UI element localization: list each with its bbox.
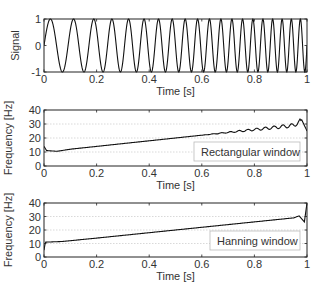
- x-tick-label: 0: [41, 73, 47, 85]
- x-tick-label: 0.6: [194, 258, 209, 270]
- y-axis-label: Signal: [9, 30, 21, 61]
- y-tick-label: 20: [29, 132, 41, 144]
- x-axis-label: Time [s]: [156, 85, 195, 97]
- x-tick-label: 1: [304, 167, 310, 179]
- y-tick-label: 0: [35, 40, 41, 52]
- x-tick-label: 0.8: [247, 258, 262, 270]
- y-tick-label: 1: [35, 13, 41, 25]
- x-tick-label: 0.6: [194, 73, 209, 85]
- x-tick-label: 0.8: [247, 73, 262, 85]
- x-tick-label: 0.6: [194, 167, 209, 179]
- hanning-window-plot: 00.20.40.60.81010203040Time [s]Frequency…: [2, 193, 310, 282]
- legend-label: Rectangular window: [201, 146, 300, 158]
- x-tick-label: 0.4: [142, 73, 157, 85]
- y-tick-label: 10: [29, 146, 41, 158]
- y-tick-label: 0: [35, 251, 41, 263]
- y-tick-label: 10: [29, 238, 41, 250]
- y-tick-label: 40: [29, 197, 41, 209]
- x-tick-label: 0.4: [142, 167, 157, 179]
- x-tick-label: 0: [41, 167, 47, 179]
- y-tick-label: 40: [29, 104, 41, 116]
- legend-label: Hanning window: [217, 235, 298, 247]
- x-tick-label: 0: [41, 258, 47, 270]
- rectangular-window-plot: 00.20.40.60.81010203040Time [s]Frequency…: [2, 101, 310, 191]
- x-tick-label: 1: [304, 73, 310, 85]
- x-tick-label: 0.2: [89, 258, 104, 270]
- y-tick-label: 30: [29, 211, 41, 223]
- y-tick-label: 0: [35, 160, 41, 172]
- y-tick-label: 20: [29, 224, 41, 236]
- x-tick-label: 0.4: [142, 258, 157, 270]
- x-tick-label: 1: [304, 258, 310, 270]
- y-tick-label: -1: [31, 66, 41, 78]
- signal-plot: 00.20.40.60.81-101Time [s]Signal: [9, 13, 310, 97]
- x-tick-label: 0.8: [247, 167, 262, 179]
- y-axis-label: Frequency [Hz]: [2, 101, 14, 176]
- y-tick-label: 30: [29, 118, 41, 130]
- figure: 00.20.40.60.81-101Time [s]Signal 00.20.4…: [0, 0, 321, 299]
- x-axis-label: Time [s]: [156, 179, 195, 191]
- x-tick-label: 0.2: [89, 73, 104, 85]
- x-tick-label: 0.2: [89, 167, 104, 179]
- y-axis-label: Frequency [Hz]: [2, 193, 14, 268]
- x-axis-label: Time [s]: [156, 270, 195, 282]
